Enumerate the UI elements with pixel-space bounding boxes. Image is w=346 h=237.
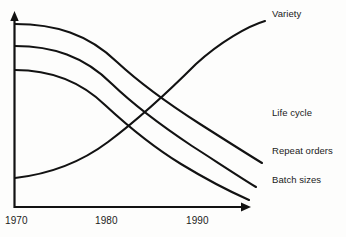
x-tick-label-1990: 1990 [186,215,209,227]
series-label-repeat-orders: Repeat orders [272,145,333,156]
x-axis-arrowhead [241,203,251,212]
series-label-batch-sizes: Batch sizes [272,174,321,185]
x-tick-label-1970: 1970 [5,215,28,227]
curve-life-cycle [15,24,262,163]
curve-batch-sizes [15,70,249,200]
x-tick-label-1980: 1980 [95,215,118,227]
series-label-life-cycle: Life cycle [272,107,312,118]
chart-plot-area [0,0,346,237]
curve-repeat-orders [15,46,256,187]
curve-variety [15,21,265,178]
y-axis-arrowhead [10,11,18,21]
series-label-variety: Variety [272,8,301,19]
trend-chart: Variety Life cycle Repeat orders Batch s… [0,0,346,237]
